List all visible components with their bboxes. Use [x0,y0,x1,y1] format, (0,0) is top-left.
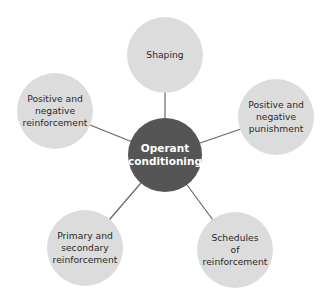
node-operant-conditioning: Operant conditioning [128,118,202,192]
node-label: Schedules of reinforcement [203,232,268,268]
node-label: Primary and secondary reinforcement [53,230,118,266]
node-positive-negative-reinforcement: Positive and negative reinforcement [17,73,93,149]
node-label: Positive and negative punishment [248,99,304,135]
node-shaping: Shaping [127,17,203,93]
center-label: Operant conditioning [128,142,202,168]
node-label: Positive and negative reinforcement [23,93,88,129]
node-schedules-of-reinforcement: Schedules of reinforcement [197,212,273,288]
node-positive-negative-punishment: Positive and negative punishment [238,79,314,155]
node-primary-secondary-reinforcement: Primary and secondary reinforcement [47,210,123,286]
node-label: Shaping [146,49,183,61]
